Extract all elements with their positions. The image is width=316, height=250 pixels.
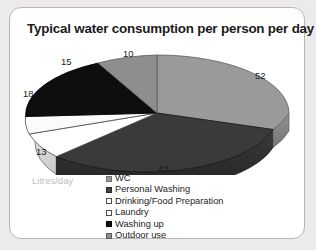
legend-item-outdoor-use[interactable]: Outdoor use (106, 230, 224, 241)
axis-label-litres-per-day: Litres/day (32, 175, 73, 186)
chart-card: Typical water consumption per person per… (9, 7, 305, 239)
data-label-outdoor-use: 10 (123, 48, 134, 59)
data-label-laundry: 13 (36, 146, 47, 157)
legend-swatch-icon-outdoor-use (106, 233, 112, 239)
legend-label-personal-washing: Personal Washing (115, 185, 190, 194)
legend-item-personal-washing[interactable]: Personal Washing (106, 184, 224, 195)
legend-swatch-icon-personal-washing (106, 187, 112, 193)
legend-label-laundry: Laundry (115, 208, 149, 217)
legend-item-laundry[interactable]: Laundry (106, 207, 224, 218)
legend-swatch-icon-washing-up (106, 221, 112, 227)
legend-label-washing-up: Washing up (115, 220, 164, 229)
legend-swatch-icon-laundry (106, 210, 112, 216)
legend-label-outdoor-use: Outdoor use (115, 231, 166, 240)
data-label-washing-up: 15 (61, 56, 72, 67)
data-label-wc: 52 (255, 70, 266, 81)
legend-swatch-icon-wc (106, 176, 112, 182)
legend-item-wc[interactable]: WC (106, 173, 224, 184)
plot-area: 52 42 18 13 15 10 Litres/day WC Personal… (10, 8, 306, 240)
legend: WC Personal Washing Drinking/Food Prepar… (106, 173, 224, 241)
legend-item-drinking-food-preparation[interactable]: Drinking/Food Preparation (106, 196, 224, 207)
legend-swatch-icon-drinking-food-preparation (106, 198, 112, 204)
legend-item-washing-up[interactable]: Washing up (106, 219, 224, 230)
data-label-drinking-food-preparation: 18 (23, 88, 34, 99)
legend-label-wc: WC (115, 174, 131, 183)
pie-chart (15, 40, 301, 175)
legend-label-drinking-food-preparation: Drinking/Food Preparation (115, 197, 224, 206)
